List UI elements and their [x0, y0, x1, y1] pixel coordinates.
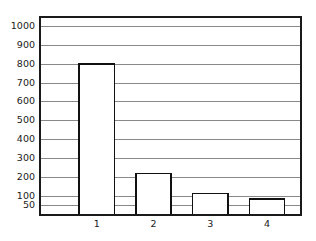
bar-2 [136, 174, 171, 215]
y-tick-label: 200 [17, 171, 35, 182]
y-tick-label: 600 [17, 95, 35, 106]
y-tick-label: 400 [17, 133, 35, 144]
x-tick-label: 1 [94, 218, 100, 229]
bar-1 [79, 64, 114, 215]
bar-4 [249, 199, 284, 215]
y-tick-label: 500 [17, 114, 35, 125]
y-tick-label: 50 [23, 199, 35, 210]
bar-3 [193, 193, 228, 215]
y-tick-label: 100 [17, 190, 35, 201]
x-tick-label: 2 [150, 218, 156, 229]
y-tick-label: 800 [17, 58, 35, 69]
y-tick-label: 1000 [11, 20, 35, 31]
x-tick-label: 3 [207, 218, 213, 229]
y-tick-label: 900 [17, 39, 35, 50]
y-tick-label: 700 [17, 77, 35, 88]
chart-canvas: 501002003004005006007008009001000 1234 [0, 0, 316, 241]
bar-chart-figure: 501002003004005006007008009001000 1234 [0, 0, 316, 241]
x-tick-label: 4 [264, 218, 270, 229]
y-tick-label: 300 [17, 152, 35, 163]
